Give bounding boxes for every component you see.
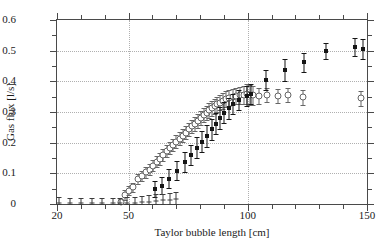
error-bar-cap: [244, 106, 249, 107]
marker-open-circle: [274, 93, 281, 100]
y-axis-tick-right: [367, 66, 372, 67]
error-bar-cap: [231, 114, 236, 115]
marker-filled-square: [245, 94, 249, 98]
marker-filled-square: [153, 187, 157, 191]
x-axis-tick-top: [343, 15, 344, 20]
x-axis-tick-top: [272, 15, 273, 20]
error-bar-cap: [146, 195, 151, 196]
error-bar-cap: [100, 204, 105, 205]
error-bar-cap: [174, 204, 179, 205]
error-bar-cap: [324, 43, 329, 44]
y-axis-tick: [50, 173, 57, 174]
x-axis-tick: [319, 204, 320, 209]
error-bar-cap: [194, 158, 199, 159]
marker-filled-square: [160, 184, 164, 188]
error-bar-cap: [282, 59, 287, 60]
error-bar-cap: [263, 70, 268, 71]
error-bar-cap: [182, 172, 187, 173]
error-bar-cap: [249, 104, 254, 105]
y-axis-tick-right: [367, 189, 372, 190]
error-bar-cap: [177, 145, 182, 146]
y-axis-tick-right: [367, 143, 374, 144]
error-bar-cap: [199, 131, 204, 132]
error-bar-cap: [188, 145, 193, 146]
x-axis-tick: [295, 204, 296, 209]
error-bar-cap: [231, 94, 236, 95]
y-axis-tick: [50, 51, 57, 52]
x-axis-tick: [200, 204, 201, 209]
marker-filled-square: [205, 134, 209, 138]
marker-tick: [174, 199, 179, 200]
y-axis-tick-right: [367, 81, 374, 82]
error-bar-cap: [171, 151, 176, 152]
y-axis-tick: [50, 143, 57, 144]
error-bar-cap: [230, 89, 235, 90]
error-bar-cap: [214, 113, 219, 114]
error-bar-cap: [174, 148, 179, 149]
error-bar-cap: [218, 107, 223, 108]
error-bar-cap: [168, 204, 173, 205]
error-bar-cap: [238, 87, 243, 88]
error-bar-cap: [100, 198, 105, 199]
error-bar-cap: [132, 197, 137, 198]
error-bar-cap: [168, 154, 173, 155]
y-axis-tick-right: [367, 35, 372, 36]
x-axis-tick-top: [81, 15, 82, 20]
marker-filled-square: [227, 106, 231, 110]
marker-tick: [139, 202, 144, 203]
y-axis-tick-right: [367, 204, 374, 205]
marker-filled-square: [222, 111, 226, 115]
x-axis-tick-top: [248, 13, 249, 20]
error-bar-cap: [324, 59, 329, 60]
y-axis-tick-label: 0.6: [2, 14, 16, 25]
error-bar-cap: [196, 128, 201, 129]
marker-filled-square: [214, 122, 218, 126]
x-axis-tick-top: [105, 15, 106, 20]
y-axis-tick-label: 0.5: [2, 44, 16, 55]
error-bar-cap: [256, 104, 261, 105]
error-bar-cap: [164, 157, 169, 158]
error-bar-cap: [158, 165, 163, 166]
x-axis-tick-label: 20: [52, 210, 63, 221]
error-bar-cap: [111, 198, 116, 199]
gridline-vertical: [248, 20, 249, 204]
error-bar-cap: [223, 91, 228, 92]
marker-tick: [111, 202, 116, 203]
error-bar-cap: [168, 193, 173, 194]
x-axis-tick-top: [295, 15, 296, 20]
error-bar-cap: [359, 106, 364, 107]
y-axis-tick-right: [367, 127, 372, 128]
error-bar-cap: [154, 167, 159, 168]
error-bar-cap: [153, 204, 158, 205]
error-bar-cap: [353, 38, 358, 39]
error-bar-cap: [57, 197, 62, 198]
error-bar-cap: [190, 133, 195, 134]
marker-open-circle: [358, 95, 365, 102]
y-axis-tick: [52, 35, 57, 36]
gridline-vertical: [129, 20, 130, 204]
x-axis-tick-label: 100: [240, 210, 257, 221]
error-bar-cap: [275, 103, 280, 104]
error-bar-cap: [184, 139, 189, 140]
error-bar-cap: [244, 86, 249, 87]
error-bar-cap: [263, 90, 268, 91]
plot-area: 2050100150: [56, 19, 368, 205]
marker-filled-square: [200, 140, 204, 144]
x-axis-tick-top: [129, 13, 130, 20]
error-bar-cap: [89, 204, 94, 205]
marker-filled-square: [189, 153, 193, 157]
error-bar-cap: [174, 192, 179, 193]
marker-filled-square: [361, 47, 365, 51]
x-axis-tick: [272, 204, 273, 209]
y-axis-tick-right: [367, 158, 372, 159]
error-bar-cap: [136, 184, 141, 185]
error-bar-cap: [282, 81, 287, 82]
error-bar-cap: [234, 88, 239, 89]
error-bar-cap: [199, 125, 204, 126]
error-bar-cap: [131, 192, 136, 193]
marker-filled-square: [249, 92, 253, 96]
error-bar-cap: [132, 204, 137, 205]
marker-filled-square: [302, 60, 306, 64]
error-bar-cap: [147, 175, 152, 176]
error-bar-cap: [175, 180, 180, 181]
